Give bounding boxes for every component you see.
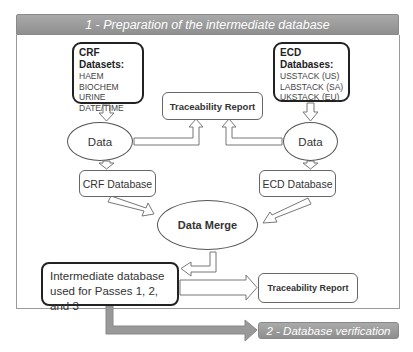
data-ellipse-right: Data (283, 122, 338, 161)
next-step-banner: 2 - Database verification (258, 322, 399, 339)
intermediate-line-2: used for Passes 1, 2, and 3 (50, 284, 177, 314)
ecd-database-item: LABSTACK (SA) (280, 82, 348, 93)
arrow-diagonal-icon (108, 196, 154, 216)
crf-datasets-box: CRF Datasets: HAEM BIOCHEM URINE DATE/TI… (72, 42, 144, 104)
ecd-databases-title: ECD Databases: (280, 47, 348, 71)
arrow-left-up-icon (222, 119, 282, 145)
ecd-database-label: ECD Database (262, 178, 332, 190)
crf-dataset-item: URINE (79, 92, 142, 103)
arrow-right-icon (180, 275, 257, 300)
data-ellipse-left: Data (67, 122, 133, 161)
crf-dataset-item: DATE/TIME (79, 103, 142, 114)
traceability-report-label: Traceability Report (267, 283, 348, 293)
ecd-database-item: UKSTACK (EU) (280, 92, 348, 103)
intermediate-database-box: Intermediate database used for Passes 1,… (41, 262, 179, 306)
arrow-down-icon (99, 161, 114, 169)
data-merge-label: Data Merge (178, 219, 237, 231)
crf-database-box: CRF Database (79, 170, 156, 197)
data-label: Data (298, 136, 322, 148)
arrow-down-icon (303, 103, 318, 121)
ecd-database-item: USSTACK (US) (280, 71, 348, 82)
crf-dataset-item: HAEM (79, 71, 142, 82)
crf-datasets-title: CRF Datasets: (79, 47, 142, 71)
traceability-report-bottom: Traceability Report (258, 273, 358, 303)
traceability-report-label: Traceability Report (170, 101, 256, 112)
intermediate-line-1: Intermediate database (50, 269, 177, 284)
crf-dataset-item: BIOCHEM (79, 82, 142, 93)
ecd-databases-box: ECD Databases: USSTACK (US) LABSTACK (SA… (273, 42, 350, 102)
arrow-down-icon (303, 161, 318, 169)
data-label: Data (88, 136, 112, 148)
arrow-down-left-icon (181, 252, 216, 276)
traceability-report-top: Traceability Report (162, 92, 263, 120)
arrow-right-up-icon (134, 119, 203, 145)
ecd-database-box: ECD Database (259, 170, 336, 197)
data-merge-ellipse: Data Merge (157, 200, 258, 250)
crf-database-label: CRF Database (83, 178, 152, 190)
arrow-diagonal-icon (263, 198, 311, 223)
next-step-label: 2 - Database verification (266, 325, 390, 337)
